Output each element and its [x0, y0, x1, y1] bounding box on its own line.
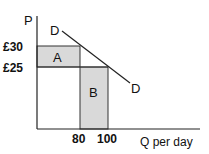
- y-axis-label: P: [24, 13, 33, 28]
- quantity-tick-80: 80: [72, 132, 86, 146]
- area-a-label: A: [53, 50, 62, 65]
- quantity-tick-100: 100: [97, 132, 117, 146]
- demand-diagram: P D D £30 £25 A B 80 100 Q per day: [0, 0, 209, 154]
- price-tick-30: £30: [3, 40, 23, 54]
- curve-label-start: D: [50, 23, 59, 38]
- x-axis-label: Q per day: [140, 135, 193, 149]
- area-b-label: B: [89, 85, 98, 100]
- curve-label-end: D: [131, 81, 140, 96]
- price-tick-25: £25: [3, 61, 23, 75]
- diagram-canvas: P D D £30 £25 A B 80 100 Q per day: [0, 0, 209, 154]
